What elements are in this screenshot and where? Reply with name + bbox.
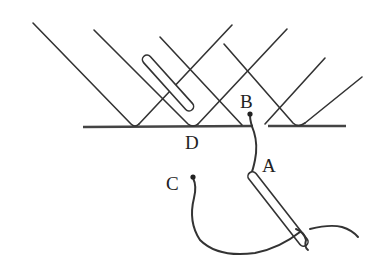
point-c-dot [190,174,195,179]
wire-b-to-a [250,115,256,174]
reflection-diagram: B D A C [0,0,377,268]
label-a: A [262,155,276,176]
label-d: D [185,132,199,153]
incident-rays [33,23,305,126]
label-c: C [166,173,179,194]
lower-rod [246,170,310,248]
trailing-wire [310,226,358,237]
point-b-dot [247,111,252,116]
diagram-canvas: B D A C [0,0,377,268]
reflecting-surface [83,126,346,127]
label-b: B [240,91,253,112]
